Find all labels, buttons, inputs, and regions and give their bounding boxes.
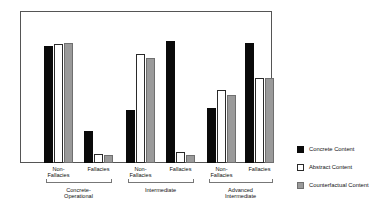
legend-item-concrete: Concrete Content [297,140,383,158]
bars-layer [20,11,272,163]
legend-item-abstract: Abstract Content [297,158,383,176]
x-tick-label-line: Fallacies [34,172,84,178]
bar-concrete-2 [126,110,135,163]
group-label-2: AdvancedIntermediate [206,187,276,200]
legend-swatch-counterfactual-icon [297,182,304,189]
bar-concrete-4 [207,108,216,163]
bar-counterfactual-3 [186,155,195,163]
bar-abstract-1 [94,154,103,163]
bar-counterfactual-5 [265,78,274,163]
legend-label: Concrete Content [309,146,354,153]
legend-label: Abstract Content [309,164,352,171]
x-tick-label-line: Fallacies [116,172,166,178]
bar-counterfactual-1 [104,155,113,163]
group-label-0: Concrete-Operational [44,187,114,200]
bar-concrete-0 [44,46,53,163]
bar-abstract-5 [255,78,264,163]
bar-concrete-5 [245,43,254,163]
group-bracket-2 [209,179,273,183]
bar-counterfactual-2 [146,58,155,163]
chart-legend: Concrete ContentAbstract ContentCounterf… [297,140,383,194]
group-label-line: Intermediate [206,193,276,199]
group-label-1: Intermediate [126,187,196,193]
legend-swatch-concrete-icon [297,146,304,153]
bar-counterfactual-4 [227,95,236,163]
group-label-line: Intermediate [126,187,196,193]
legend-swatch-abstract-icon [297,164,304,171]
bar-abstract-0 [54,44,63,163]
group-label-line: Operational [44,193,114,199]
x-tick-label-line: Fallacies [235,166,285,172]
group-bracket-0 [46,179,112,183]
bar-abstract-3 [176,152,185,163]
legend-label: Counterfactual Content [309,182,369,189]
bar-chart-figure: Non-FallaciesFallaciesNon-FallaciesFalla… [0,0,385,215]
bar-counterfactual-0 [64,43,73,163]
bar-abstract-2 [136,54,145,163]
x-tick-label-line: Fallacies [197,172,247,178]
bar-abstract-4 [217,90,226,163]
group-bracket-1 [128,179,194,183]
bar-concrete-3 [166,41,175,163]
bar-concrete-1 [84,131,93,163]
x-tick-label-5: Fallacies [235,166,285,172]
legend-item-counterfactual: Counterfactual Content [297,176,383,194]
